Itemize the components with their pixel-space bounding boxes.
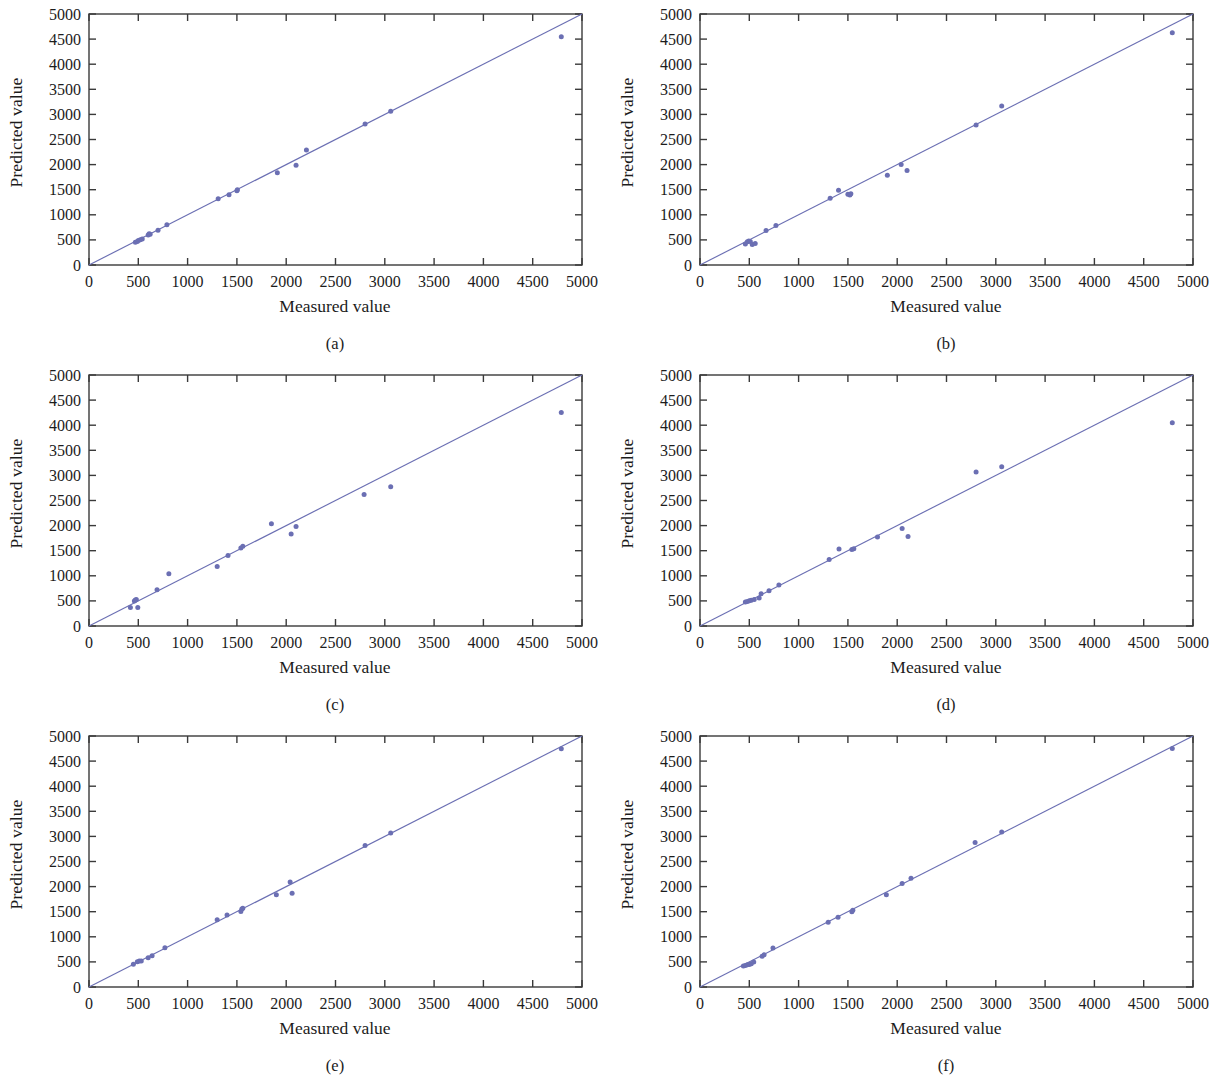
y-tick-label: 5000 [660, 367, 692, 384]
data-point [164, 222, 169, 227]
data-point [289, 531, 294, 536]
data-point [759, 591, 764, 596]
data-point [294, 524, 299, 529]
panel-d-chart: 0500100015002000250030003500400045005000… [611, 361, 1222, 651]
data-point [362, 492, 367, 497]
y-tick-label: 1500 [660, 903, 692, 920]
data-point [828, 196, 833, 201]
data-point [836, 188, 841, 193]
x-tick-label: 0 [85, 634, 93, 651]
data-point [974, 122, 979, 127]
x-tick-label: 5000 [1177, 995, 1209, 1012]
x-tick-label: 4500 [1128, 995, 1160, 1012]
panel-a: Predicted value 050010001500200025003000… [0, 0, 611, 362]
x-tick-label: 4000 [467, 273, 499, 290]
data-point [215, 564, 220, 569]
x-tick-label: 3500 [1029, 273, 1061, 290]
data-point [999, 464, 1004, 469]
panel-d-x-axis-title: Measured value [699, 657, 1193, 678]
panel-c-x-axis-title: Measured value [88, 657, 582, 678]
panel-b: Predicted value 050010001500200025003000… [611, 0, 1222, 362]
panel-f-plot-area: Predicted value 050010001500200025003000… [611, 722, 1222, 1022]
x-tick-label: 1000 [172, 634, 204, 651]
y-tick-label: 1500 [660, 181, 692, 198]
y-tick-label: 2500 [49, 853, 81, 870]
y-tick-label: 1000 [660, 567, 692, 584]
panel-e: Predicted value 050010001500200025003000… [0, 722, 611, 1084]
x-tick-label: 4500 [1128, 634, 1160, 651]
data-point [275, 170, 280, 175]
x-tick-label: 500 [737, 995, 761, 1012]
x-tick-label: 2000 [270, 273, 302, 290]
y-tick-label: 3500 [49, 803, 81, 820]
y-tick-label: 4500 [660, 31, 692, 48]
data-point [140, 236, 145, 241]
x-tick-label: 2500 [320, 995, 352, 1012]
y-tick-label: 500 [57, 231, 81, 248]
x-tick-label: 1500 [221, 995, 253, 1012]
data-point [139, 958, 144, 963]
data-point [135, 605, 140, 610]
data-point [216, 196, 221, 201]
x-tick-label: 0 [85, 995, 93, 1012]
data-point [770, 946, 775, 951]
x-tick-label: 1000 [783, 273, 815, 290]
panel-d-plot-area: Predicted value 050010001500200025003000… [611, 361, 1222, 661]
data-point [906, 534, 911, 539]
y-tick-label: 3500 [660, 81, 692, 98]
x-tick-label: 2000 [881, 634, 913, 651]
x-tick-label: 2500 [931, 634, 963, 651]
data-point [155, 587, 160, 592]
y-tick-label: 0 [73, 618, 81, 635]
x-tick-label: 4000 [1078, 634, 1110, 651]
data-point [235, 187, 240, 192]
x-tick-label: 1500 [832, 273, 864, 290]
x-tick-label: 500 [737, 634, 761, 651]
data-point [363, 843, 368, 848]
x-tick-label: 3000 [369, 634, 401, 651]
data-point [973, 840, 978, 845]
data-point [827, 557, 832, 562]
y-tick-label: 4500 [49, 753, 81, 770]
identity-reference-line [89, 14, 582, 265]
y-tick-label: 4000 [660, 778, 692, 795]
y-tick-label: 0 [684, 257, 692, 274]
x-tick-label: 4500 [517, 273, 549, 290]
y-tick-label: 3500 [49, 81, 81, 98]
data-point [150, 953, 155, 958]
y-tick-label: 2000 [49, 156, 81, 173]
x-tick-label: 0 [696, 634, 704, 651]
y-tick-label: 3500 [660, 442, 692, 459]
x-tick-label: 3000 [980, 995, 1012, 1012]
data-point [290, 891, 295, 896]
y-tick-label: 4000 [660, 56, 692, 73]
x-tick-label: 1500 [832, 995, 864, 1012]
panel-b-x-axis-title: Measured value [699, 296, 1193, 317]
data-point [269, 521, 274, 526]
y-tick-label: 500 [668, 592, 692, 609]
y-tick-label: 2000 [660, 517, 692, 534]
panel-b-chart: 0500100015002000250030003500400045005000… [611, 0, 1222, 290]
x-tick-label: 3500 [1029, 634, 1061, 651]
x-tick-label: 500 [126, 995, 150, 1012]
data-point [837, 546, 842, 551]
identity-reference-line [89, 375, 582, 626]
x-tick-label: 4000 [1078, 273, 1110, 290]
x-tick-label: 2500 [320, 273, 352, 290]
data-point [762, 952, 767, 957]
x-tick-label: 3000 [980, 634, 1012, 651]
y-tick-label: 1000 [660, 206, 692, 223]
x-tick-label: 2500 [931, 273, 963, 290]
y-tick-label: 3000 [49, 106, 81, 123]
x-tick-label: 3000 [369, 995, 401, 1012]
x-tick-label: 1000 [172, 995, 204, 1012]
panel-b-caption: (b) [699, 334, 1193, 354]
x-tick-label: 4000 [1078, 995, 1110, 1012]
x-tick-label: 3500 [418, 995, 450, 1012]
x-tick-label: 0 [85, 273, 93, 290]
y-tick-label: 4500 [660, 753, 692, 770]
data-point [304, 148, 309, 153]
y-tick-label: 4000 [660, 417, 692, 434]
panel-b-plot-area: Predicted value 050010001500200025003000… [611, 0, 1222, 300]
x-tick-label: 2000 [881, 995, 913, 1012]
